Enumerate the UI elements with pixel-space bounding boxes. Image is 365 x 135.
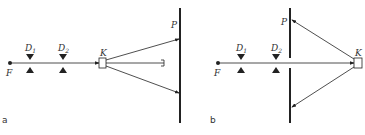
diaphragm2-label: D2 (270, 43, 282, 54)
diaphragm2-top-icon (272, 54, 280, 60)
crystal-label: K (354, 48, 363, 58)
diaphragm1-top-icon (26, 54, 34, 60)
diaphragm2-bottom-icon (272, 67, 280, 73)
diaphragm2-label: D2 (57, 43, 69, 54)
panel-a: F D1 D2 K P a (2, 8, 180, 125)
screen-label: P (170, 20, 178, 30)
diagram-canvas: F D1 D2 K P a F D1 D2 (0, 0, 365, 135)
diaphragm1-bottom-icon (237, 67, 245, 73)
reflected-beam-upper (292, 20, 354, 59)
diaphragm1-top-icon (237, 54, 245, 60)
diaphragm2-top-icon (59, 54, 67, 60)
source-label: F (5, 68, 13, 78)
diaphragm1-bottom-icon (26, 67, 34, 73)
diffracted-beam-upper (106, 39, 179, 60)
diffracted-beam-lower (106, 66, 179, 93)
diaphragm1-label: D1 (24, 43, 36, 54)
reflected-beam-lower (292, 67, 354, 107)
crystal-label: K (99, 48, 108, 58)
crystal-box (99, 58, 106, 68)
source-label: F (213, 68, 221, 78)
screen-label: P (280, 17, 288, 27)
panel-b: F D1 D2 P K b (210, 8, 363, 125)
diaphragm1-label: D1 (235, 43, 247, 54)
diaphragm2-bottom-icon (59, 67, 67, 73)
panel-label-b: b (210, 115, 216, 125)
crystal-box (354, 58, 362, 68)
panel-label-a: a (2, 115, 8, 125)
